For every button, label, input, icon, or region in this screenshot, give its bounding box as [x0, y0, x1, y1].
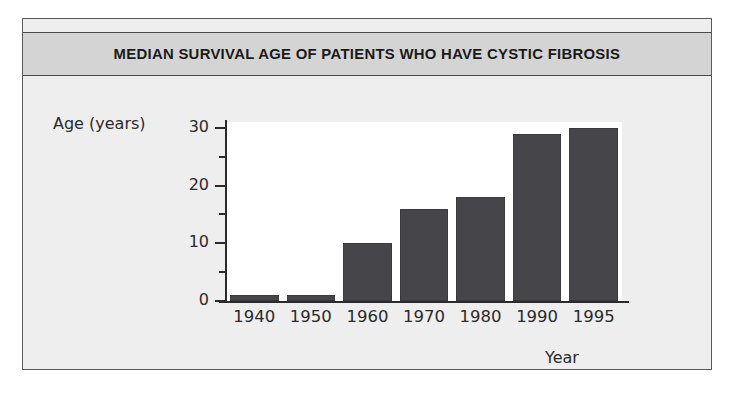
bar-slot [452, 122, 509, 301]
y-axis-tick-major [215, 242, 226, 244]
y-axis-tick-minor [219, 271, 226, 273]
page-title: MEDIAN SURVIVAL AGE OF PATIENTS WHO HAVE… [114, 45, 621, 63]
plot-wrapper: Age (years) 0102030 19401950196019701980… [23, 76, 711, 369]
y-axis-title: Age (years) [53, 114, 146, 133]
y-axis-tick-major [215, 127, 226, 129]
y-axis-tick-label: 20 [163, 175, 209, 194]
bar-slot [396, 122, 453, 301]
bar[interactable] [513, 134, 562, 301]
x-axis-tick-label: 1940 [226, 307, 283, 326]
bar-slot [509, 122, 566, 301]
x-axis-tick-label: 1960 [339, 307, 396, 326]
bar[interactable] [343, 243, 392, 301]
bar[interactable] [400, 209, 449, 301]
y-axis-tick-label: 10 [163, 232, 209, 251]
bar[interactable] [569, 128, 618, 301]
x-axis-title: Year [545, 348, 579, 367]
bar-group [226, 122, 622, 301]
y-axis-tick-label: 0 [163, 290, 209, 309]
y-axis-tick-major [215, 185, 226, 187]
x-axis-tick-label: 1990 [509, 307, 566, 326]
y-axis-tick-major [215, 300, 226, 302]
bar-slot [339, 122, 396, 301]
x-axis-tick-label: 1950 [283, 307, 340, 326]
x-axis-line [219, 301, 629, 303]
chart-title-band: MEDIAN SURVIVAL AGE OF PATIENTS WHO HAVE… [23, 32, 711, 76]
bar-slot [283, 122, 340, 301]
chart-figure: MEDIAN SURVIVAL AGE OF PATIENTS WHO HAVE… [22, 18, 712, 370]
bar-slot [226, 122, 283, 301]
x-axis-tick-label: 1995 [565, 307, 622, 326]
y-axis-tick-label: 30 [163, 117, 209, 136]
x-axis-tick-label: 1970 [396, 307, 453, 326]
bar-slot [565, 122, 622, 301]
bar[interactable] [287, 295, 336, 301]
y-axis-tick-minor [219, 156, 226, 158]
bar[interactable] [230, 295, 279, 301]
y-axis-tick-minor [219, 213, 226, 215]
x-axis-tick-label: 1980 [452, 307, 509, 326]
bar[interactable] [456, 197, 505, 301]
